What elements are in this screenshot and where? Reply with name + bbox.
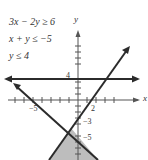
- y-axis-label: y: [74, 14, 78, 24]
- graph-figure: 3x − 2y ≥ 6 x + y ≤ −5 y ≤ 4 y x 4 −5 2 …: [0, 0, 148, 160]
- inequality-2: x + y ≤ −5: [9, 33, 52, 45]
- inequality-3: y ≤ 4: [9, 50, 29, 62]
- tick-label-x-neg5: −5: [29, 104, 38, 113]
- arrow-right-icon: [132, 76, 140, 83]
- inequality-1: 3x − 2y ≥ 6: [9, 16, 55, 28]
- x-axis-arrow-icon: [133, 98, 140, 103]
- tick-label-y-neg3: −3: [83, 117, 92, 126]
- line-3x-minus-2y-eq-6: [49, 50, 127, 160]
- arrow-left-icon: [4, 76, 12, 83]
- tick-label-y-neg5: −5: [83, 133, 92, 142]
- tick-label-x-2: 2: [91, 104, 95, 113]
- y-axis-arrow-icon: [76, 30, 81, 37]
- tick-label-y-4: 4: [66, 71, 70, 80]
- x-axis-label: x: [143, 93, 147, 103]
